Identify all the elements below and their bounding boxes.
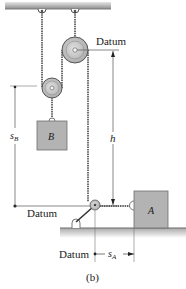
datum-label-left: Datum	[27, 207, 57, 219]
h-label: h	[110, 132, 116, 144]
block-b-label: B	[48, 131, 54, 142]
svg-text:sA: sA	[108, 248, 117, 261]
figure-caption: (b)	[86, 271, 99, 284]
ground-anchor	[72, 207, 93, 228]
sb-sub: B	[14, 135, 19, 143]
block-a-label: A	[147, 205, 155, 216]
datum-label-top: Datum	[96, 35, 126, 47]
sa-sub: A	[111, 253, 117, 261]
block-a: A	[130, 191, 169, 228]
datum-label-bottom: Datum	[59, 248, 89, 260]
ceiling	[5, 2, 111, 9]
ground	[60, 228, 186, 238]
bottom-pulley	[90, 200, 100, 210]
pulley-system-diagram: Datum B sB h Datum	[0, 0, 186, 289]
dimension-sb: sB	[8, 86, 24, 208]
block-b: B	[37, 118, 67, 150]
dimension-h: h	[108, 51, 118, 205]
small-pulley	[42, 78, 62, 98]
